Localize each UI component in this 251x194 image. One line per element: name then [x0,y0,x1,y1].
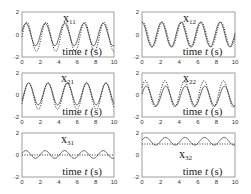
y-tick-label: 0 [136,92,140,98]
subplot-title: x31 [61,132,75,147]
y-tick-label: 2 [136,9,140,15]
x-tick-label: 10 [111,59,118,65]
x-tick-label: 0 [20,59,24,65]
series-solid [22,151,114,159]
y-tick-label: 0 [16,32,20,38]
x-tick-label: 0 [140,119,144,125]
y-tick-label: 2 [136,70,140,76]
x-tick-label: 8 [215,119,219,125]
x-tick-label: 6 [196,179,200,185]
x-tick-label: 10 [232,59,239,65]
x-tick-label: 4 [57,59,61,65]
y-tick-label: -2 [134,114,140,120]
y-tick-label: 2 [16,130,20,136]
y-tick-label: -2 [14,54,20,60]
y-tick-label: 0 [136,32,140,38]
x-tick-label: 8 [215,59,219,65]
x-tick-label: 2 [39,59,43,65]
x-tick-label: 6 [196,59,200,65]
x-axis-label: time t (s) [183,105,223,118]
x-tick-label: 0 [140,59,144,65]
x-tick-label: 10 [111,119,118,125]
y-tick-label: -2 [134,54,140,60]
y-tick-label: 2 [136,130,140,136]
subplot-title: x12 [183,11,197,26]
x-tick-label: 8 [215,179,219,185]
x-axis-label: time t (s) [183,165,223,178]
x-tick-label: 6 [76,119,80,125]
x-tick-label: 2 [159,59,163,65]
x-tick-label: 2 [159,119,163,125]
y-tick-label: -2 [134,174,140,180]
subplot-title: x11 [63,11,76,26]
x-tick-label: 2 [159,179,163,185]
y-tick-label: 0 [136,152,140,158]
x-axis-label: time t (s) [183,45,223,58]
y-tick-label: -2 [14,174,20,180]
x-tick-label: 6 [76,59,80,65]
x-tick-label: 8 [94,119,98,125]
x-tick-label: 10 [232,119,239,125]
x-tick-label: 4 [178,59,182,65]
subplot-x22: 0246810-202x22time t (s) [134,70,239,125]
subplot-x31: 0246810-202x31time t (s) [14,130,118,185]
x-axis-label: time t (s) [62,45,102,58]
y-tick-label: 2 [16,70,20,76]
y-tick-label: 2 [16,9,20,15]
subplot-x11: 0246810-202x11time t (s) [14,9,118,65]
y-tick-label: -2 [14,114,20,120]
x-axis-label: time t (s) [62,105,102,118]
x-tick-label: 0 [140,179,144,185]
x-axis-label: time t (s) [62,165,102,178]
subplot-x32: 0246810-202x32time t (s) [134,130,239,185]
figure: 0246810-202x11time t (s)0246810-202x12ti… [0,0,251,194]
x-tick-label: 0 [20,119,24,125]
subplot-title: x32 [179,147,193,162]
series-solid [142,137,235,145]
x-tick-label: 8 [94,179,98,185]
x-tick-label: 6 [76,179,80,185]
x-tick-label: 8 [94,59,98,65]
x-tick-label: 4 [57,179,61,185]
y-tick-label: 0 [16,92,20,98]
x-tick-label: 4 [57,119,61,125]
x-tick-label: 10 [232,179,239,185]
x-tick-label: 10 [111,179,118,185]
x-tick-label: 0 [20,179,24,185]
subplot-x12: 0246810-202x12time t (s) [134,9,239,65]
y-tick-label: 0 [16,152,20,158]
x-tick-label: 2 [39,119,43,125]
x-tick-label: 4 [178,119,182,125]
x-tick-label: 4 [178,179,182,185]
x-tick-label: 6 [196,119,200,125]
series-solid [22,23,114,45]
x-tick-label: 2 [39,179,43,185]
subplot-x21: 0246810-202x21time t (s) [14,70,118,125]
